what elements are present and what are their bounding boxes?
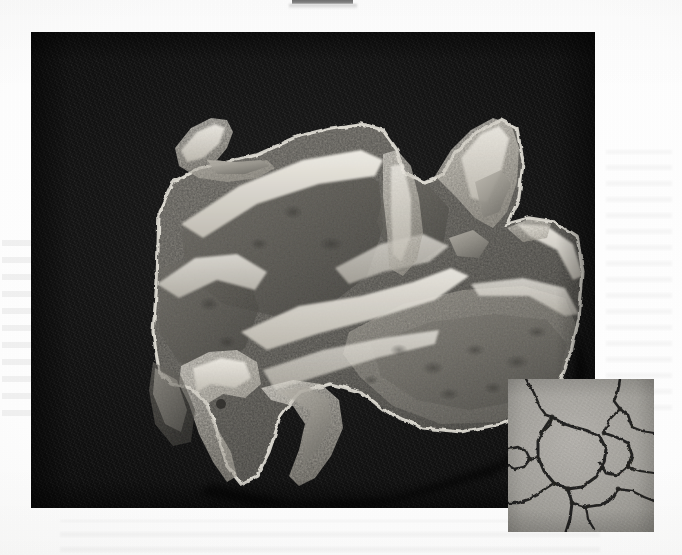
detail-inset-plate [508,379,654,532]
ghost-text-right-margin [606,150,672,410]
inset-edge-shading [508,379,654,532]
scanned-page [0,0,682,555]
top-crop-mark-shadow [289,4,357,9]
